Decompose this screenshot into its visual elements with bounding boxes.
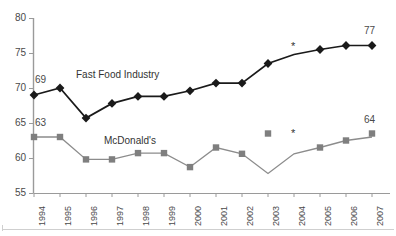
bottom-divider-tick — [2, 225, 3, 231]
series-line-fast-food — [34, 46, 372, 119]
series-label-fast-food: Fast Food Industry — [76, 69, 159, 80]
x-tick-label-1996: 1996 — [90, 206, 99, 226]
x-tick-label-1994: 1994 — [38, 206, 47, 226]
x-tick-label-1995: 1995 — [64, 206, 73, 226]
bottom-divider — [2, 229, 394, 230]
x-tick-label-2005: 2005 — [324, 206, 333, 226]
x-tick-label-2004: 2004 — [298, 206, 307, 226]
x-tick-label-2003: 2003 — [272, 206, 281, 226]
chart-container: 80 75 70 65 60 55 — [0, 0, 396, 236]
series-markers-fast-food — [30, 41, 377, 122]
series-line-mcdonalds — [34, 137, 372, 174]
x-tick-label-2006: 2006 — [350, 206, 359, 226]
x-tick-label-1997: 1997 — [116, 206, 125, 226]
x-tick-label-1999: 1999 — [168, 206, 177, 226]
x-tick-label-1998: 1998 — [142, 206, 151, 226]
x-tick-label-2002: 2002 — [246, 206, 255, 226]
asterisk-mcdonalds-2004: * — [291, 128, 295, 139]
point-label-mcdonalds-1994: 63 — [35, 117, 46, 128]
x-tick-label-2001: 2001 — [220, 206, 229, 226]
series-label-mcdonalds: McDonald's — [104, 135, 156, 146]
series-markers-mcdonalds — [31, 130, 375, 170]
x-tick-label-2000: 2000 — [194, 206, 203, 226]
asterisk-fast-food-2004: * — [291, 41, 295, 52]
point-label-fast-food-1994: 69 — [35, 74, 46, 85]
x-tick-label-2007: 2007 — [376, 206, 385, 226]
point-label-mcdonalds-2007: 64 — [364, 114, 375, 125]
chart-plot-svg — [0, 0, 396, 236]
point-label-fast-food-2007: 77 — [364, 25, 375, 36]
